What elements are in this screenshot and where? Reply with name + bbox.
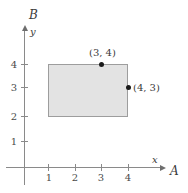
x-axis-tick-3 [101,164,102,171]
x-axis-tick-label-3: 3 [94,172,108,183]
data-point-label-3-4: (3, 4) [89,47,116,58]
x-axis-arrow-icon [160,165,166,171]
x-axis-tick-1 [48,164,49,171]
y-axis-variable-label: y [30,26,36,37]
cartesian-plane-figure: 4 3 2 1 1 2 3 4 (3, 4) (4, 3) y x B A [0,0,188,193]
y-axis-tick-4 [21,64,28,65]
x-axis-tick-label-4: 4 [121,172,135,183]
y-axis-tick-label-3: 3 [3,82,17,93]
shaded-rectangle-region [48,64,128,117]
x-axis-line [6,167,162,168]
x-axis-set-label-a: A [170,164,179,178]
y-axis-tick-2 [21,116,28,117]
y-axis-arrow-icon [22,25,28,31]
y-axis-line [24,30,25,185]
y-axis-tick-label-4: 4 [3,59,17,70]
y-axis-tick-1 [21,141,28,142]
x-axis-tick-label-1: 1 [42,172,56,183]
x-axis-tick-4 [128,164,129,171]
y-axis-set-label-b: B [29,8,38,22]
x-axis-tick-2 [75,164,76,171]
x-axis-variable-label: x [152,154,158,165]
y-axis-tick-3 [21,87,28,88]
data-point-dot-4-3 [126,85,131,90]
y-axis-tick-label-1: 1 [3,136,17,147]
data-point-label-4-3: (4, 3) [133,82,160,93]
y-axis-tick-label-2: 2 [3,111,17,122]
x-axis-tick-label-2: 2 [68,172,82,183]
data-point-dot-3-4 [99,62,104,67]
